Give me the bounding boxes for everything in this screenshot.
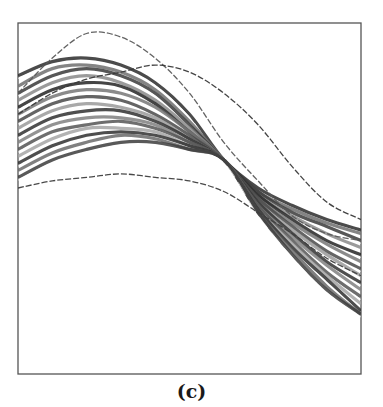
line-plot — [0, 0, 383, 407]
figure-caption: (c) — [0, 380, 383, 402]
figure-panel: (c) — [0, 0, 383, 407]
plot-frame — [18, 23, 361, 374]
